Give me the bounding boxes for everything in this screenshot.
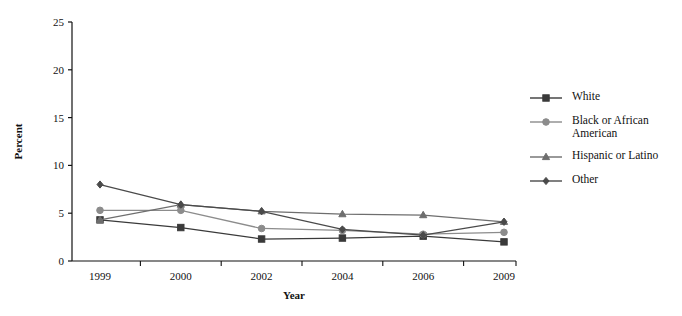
data-point <box>501 239 507 245</box>
legend-swatch-triangle-icon <box>528 150 564 164</box>
chart-figure: 0510152025199920002002200420062009YearPe… <box>0 0 682 316</box>
legend-label: Other <box>564 173 598 186</box>
legend-label: Black or African American <box>564 114 678 140</box>
series-layer <box>96 181 507 245</box>
y-tick-label: 20 <box>53 64 65 76</box>
legend-swatch-diamond-icon <box>528 174 564 188</box>
legend-item-black-or-african-american[interactable]: Black or African American <box>528 114 678 140</box>
y-tick-label: 15 <box>53 112 65 124</box>
x-axis-title: Year <box>283 289 305 301</box>
x-tick-label: 2009 <box>493 270 516 282</box>
legend-label: Hispanic or Latino <box>564 149 658 162</box>
x-tick-label: 2006 <box>412 270 435 282</box>
x-tick-label: 1999 <box>89 270 112 282</box>
y-axis-title: Percent <box>12 123 24 159</box>
legend-label: White <box>564 90 600 103</box>
data-point <box>97 207 104 214</box>
data-point <box>178 224 184 230</box>
chart-legend: White Black or African American Hispanic… <box>528 90 678 197</box>
data-point <box>258 236 264 242</box>
x-tick-label: 2004 <box>331 270 354 282</box>
data-point <box>339 235 345 241</box>
x-tick-label: 2002 <box>251 270 273 282</box>
legend-swatch-square-icon <box>528 91 564 105</box>
y-tick-label: 5 <box>59 207 65 219</box>
y-tick-label: 10 <box>53 159 65 171</box>
legend-item-white[interactable]: White <box>528 90 678 105</box>
y-tick-label: 25 <box>53 16 65 28</box>
data-point <box>258 225 265 232</box>
y-tick-label: 0 <box>59 255 65 267</box>
axis-label-layer: 0510152025199920002002200420062009YearPe… <box>12 16 516 301</box>
legend-item-other[interactable]: Other <box>528 173 678 188</box>
x-tick-label: 2000 <box>170 270 193 282</box>
data-point <box>501 229 508 236</box>
data-point <box>97 181 103 188</box>
legend-item-hispanic-or-latino[interactable]: Hispanic or Latino <box>528 149 678 164</box>
legend-swatch-circle-icon <box>528 115 564 129</box>
series-line-black-or-african-american <box>97 207 508 238</box>
